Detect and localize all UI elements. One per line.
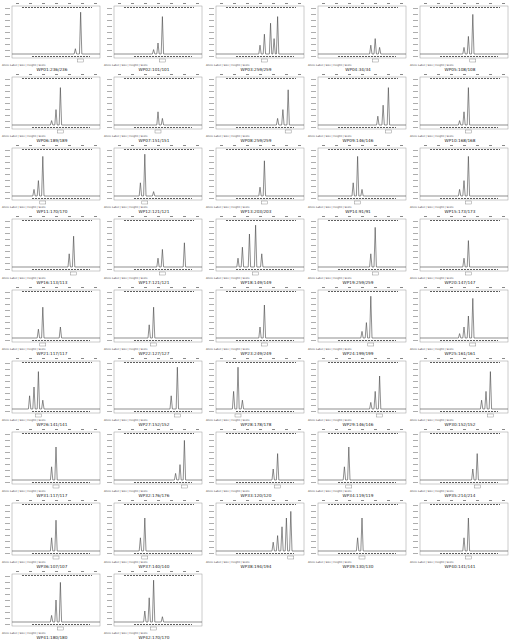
panel-title: WP16:113/113: [2, 280, 102, 285]
plot-area: [410, 428, 510, 490]
allele-marker: [465, 201, 471, 204]
chart-panel: Allele Label | Size | Height | ScoreWP28…: [206, 357, 306, 427]
panel-title: WP04:34/34: [308, 67, 408, 72]
allele-marker: [285, 130, 291, 133]
chart-panel: Allele Label | Size | Height | ScoreWP12…: [104, 144, 204, 214]
allele-marker: [159, 59, 165, 62]
chart-panel: Allele Label | Size | Height | ScoreWP14…: [308, 144, 408, 214]
plot-area: [206, 428, 306, 490]
panel-title: WP41:180/180: [2, 635, 102, 640]
panel-title: WP27:152/152: [104, 422, 204, 427]
plot-area: [308, 357, 408, 419]
panel-title: WP22:127/127: [104, 351, 204, 356]
panel-title: WP31:117/117: [2, 493, 102, 498]
chart-panel: Allele Label | Size | Height | ScoreWP02…: [104, 2, 204, 72]
allele-marker: [465, 556, 471, 559]
panel-title: WP30:152/152: [410, 422, 510, 427]
plot-area: [2, 2, 102, 64]
panel-title: WP15:173/173: [410, 209, 510, 214]
panel-title: WP11:170/170: [2, 209, 102, 214]
chart-panel: Allele Label | Size | Height | ScoreWP22…: [104, 286, 204, 356]
panel-title: WP33:120/120: [206, 493, 306, 498]
allele-marker: [142, 201, 148, 204]
plot-area: [104, 2, 204, 64]
chart-panel: Allele Label | Size | Height | ScoreWP20…: [410, 215, 510, 285]
panel-title: WP29:146/146: [308, 422, 408, 427]
plot-area: [308, 215, 408, 277]
plot-area: [308, 144, 408, 206]
chart-panel: Allele Label | Size | Height | ScoreWP31…: [2, 428, 102, 498]
panel-title: WP12:121/121: [104, 209, 204, 214]
plot-area: [410, 357, 510, 419]
allele-marker: [465, 272, 471, 275]
chart-panel: Allele Label | Size | Height | ScoreWP08…: [206, 73, 306, 143]
allele-marker: [377, 414, 383, 417]
chart-panel: Allele Label | Size | Height | ScoreWP16…: [2, 215, 102, 285]
chart-panel: Allele Label | Size | Height | ScoreWP42…: [104, 570, 204, 640]
allele-marker: [235, 414, 241, 417]
panel-title: WP14:91/91: [308, 209, 408, 214]
chart-panel: Allele Label | Size | Height | ScoreWP10…: [410, 73, 510, 143]
panel-title: WP01:236/236: [2, 67, 102, 72]
panel-title: WP13:203/203: [206, 209, 306, 214]
plot-area: [104, 73, 204, 135]
chart-panel: Allele Label | Size | Height | ScoreWP27…: [104, 357, 204, 427]
panel-title: WP18:149/149: [206, 280, 306, 285]
allele-marker: [385, 130, 391, 133]
plot-area: [2, 144, 102, 206]
allele-marker: [57, 130, 63, 133]
chart-panel: Allele Label | Size | Height | ScoreWP11…: [2, 144, 102, 214]
plot-area: [308, 2, 408, 64]
chart-panel: Allele Label | Size | Height | ScoreWP21…: [2, 286, 102, 356]
chart-panel: Allele Label | Size | Height | ScoreWP24…: [308, 286, 408, 356]
plot-area: [206, 73, 306, 135]
allele-marker: [261, 343, 267, 346]
panel-title: WP07:151/151: [104, 138, 204, 143]
plot-area: [104, 215, 204, 277]
allele-marker: [355, 201, 361, 204]
plot-area: [410, 286, 510, 348]
chart-panel: Allele Label | Size | Height | ScoreWP01…: [2, 2, 102, 72]
plot-area: [410, 2, 510, 64]
panel-title: WP21:117/117: [2, 351, 102, 356]
allele-marker: [159, 272, 165, 275]
allele-marker: [181, 485, 187, 488]
panel-title: WP09:146/146: [308, 138, 408, 143]
chart-panel: Allele Label | Size | Height | ScoreWP25…: [410, 286, 510, 356]
panel-title: WP40:141/141: [410, 564, 510, 569]
panel-title: WP37:140/140: [104, 564, 204, 569]
allele-marker: [346, 485, 352, 488]
allele-marker: [57, 627, 63, 630]
chart-panel: Allele Label | Size | Height | ScoreWP19…: [308, 215, 408, 285]
allele-marker: [40, 343, 46, 346]
chart-panel: Allele Label | Size | Height | ScoreWP40…: [410, 499, 510, 569]
chart-panel: Allele Label | Size | Height | ScoreWP17…: [104, 215, 204, 285]
panel-title: WP28:178/178: [206, 422, 306, 427]
allele-marker: [372, 272, 378, 275]
allele-marker: [174, 414, 180, 417]
panel-title: WP39:130/130: [308, 564, 408, 569]
plot-area: [308, 286, 408, 348]
chart-panel: Allele Label | Size | Height | ScoreWP33…: [206, 428, 306, 498]
chart-panel: Allele Label | Size | Height | ScoreWP35…: [410, 428, 510, 498]
allele-marker: [474, 485, 480, 488]
allele-marker: [359, 556, 365, 559]
chart-panel: Allele Label | Size | Height | ScoreWP06…: [2, 73, 102, 143]
allele-marker: [372, 59, 378, 62]
plot-area: [206, 215, 306, 277]
panel-title: WP17:121/121: [104, 280, 204, 285]
panel-title: WP25:161/161: [410, 351, 510, 356]
plot-area: [104, 428, 204, 490]
plot-area: [410, 215, 510, 277]
allele-marker: [40, 201, 46, 204]
panel-title: WP10:168/168: [410, 138, 510, 143]
panel-title: WP03:259/259: [206, 67, 306, 72]
plot-area: [206, 2, 306, 64]
allele-marker: [151, 627, 157, 630]
plot-area: [206, 357, 306, 419]
plot-area: [308, 428, 408, 490]
plot-area: [410, 73, 510, 135]
plot-area: [2, 570, 102, 632]
chart-panel: Allele Label | Size | Height | ScoreWP38…: [206, 499, 306, 569]
chart-panel: Allele Label | Size | Height | ScoreWP03…: [206, 2, 306, 72]
